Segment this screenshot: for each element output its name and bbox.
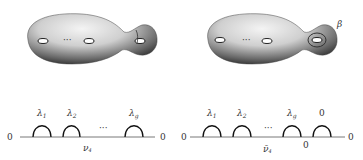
left-graph: 0 0 λ1 λ2 ··· λg ν4	[7, 108, 166, 153]
bottom-zero: 0	[303, 140, 309, 150]
arc-lambda-1	[203, 126, 221, 137]
arc-lambda-1	[33, 126, 51, 137]
edge-label-nu: ν4	[83, 143, 92, 153]
left-genus-surface: ···	[28, 14, 158, 64]
right-end-zero: 0	[160, 132, 166, 142]
right-genus-surface: ··· β	[208, 14, 343, 64]
label-lambda-2: λ2	[66, 108, 77, 119]
label-lambda-1: λ1	[206, 108, 217, 119]
right-end-zero: 0	[348, 132, 354, 142]
arc-lambda-g	[283, 126, 301, 137]
arc-lambda-2	[63, 126, 80, 137]
graph-dots: ···	[99, 123, 108, 133]
hole-icon	[135, 39, 145, 44]
arc-lambda-g	[125, 126, 143, 137]
graph-dots: ···	[264, 123, 273, 133]
left-end-zero: 0	[7, 132, 13, 142]
edge-label-nu-bar: ν̄4	[263, 144, 272, 154]
surface-dots: ···	[63, 35, 72, 45]
label-lambda-g: λg	[286, 108, 297, 120]
label-lambda-1: λ1	[36, 108, 47, 119]
label-lambda-g: λg	[128, 108, 139, 120]
left-end-zero: 0	[181, 132, 187, 142]
label-lambda-2: λ2	[236, 108, 247, 119]
label-arc-zero: 0	[319, 108, 325, 118]
surface-dots: ···	[242, 35, 251, 45]
beta-label: β	[336, 19, 342, 29]
right-graph: 0 0 λ1 λ2 ··· λg 0 0 ν̄4	[181, 108, 354, 154]
figure-canvas: ··· ··· β 0 0 λ1 λ2 ··· λg ν4 0 0 λ1 λ2 …	[0, 0, 363, 160]
arc-zero	[313, 126, 331, 137]
hole-icon	[84, 39, 94, 44]
hole-icon	[215, 38, 225, 43]
hole-icon	[312, 38, 322, 43]
arc-lambda-2	[233, 126, 251, 137]
hole-icon	[262, 39, 272, 44]
hole-icon	[38, 39, 48, 44]
